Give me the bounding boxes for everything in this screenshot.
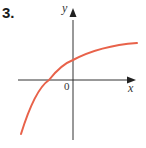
y-axis-label: y <box>62 1 67 16</box>
x-axis-label: x <box>128 81 133 96</box>
graph <box>0 0 146 148</box>
function-curve <box>21 43 137 134</box>
y-axis-arrow-icon <box>70 8 77 17</box>
origin-label: 0 <box>64 80 70 92</box>
